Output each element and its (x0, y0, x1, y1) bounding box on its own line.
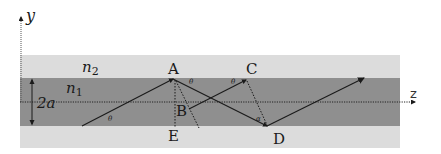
cladding-bottom (20, 126, 400, 148)
angle-alpha-at-D: α (256, 115, 261, 123)
cladding-top (20, 55, 400, 78)
point-label-D: D (273, 130, 285, 148)
point-label-B: B (176, 102, 187, 120)
point-label-C: C (246, 60, 257, 78)
y-axis-label: y (25, 6, 36, 25)
point-label-E: E (168, 127, 179, 145)
z-axis-label: z (410, 86, 417, 101)
waveguide-diagram: y z 2a n2 n1 θ θ θ α A B C D E (0, 0, 441, 154)
thickness-label: 2a (36, 94, 56, 112)
point-label-A: A (167, 60, 179, 78)
